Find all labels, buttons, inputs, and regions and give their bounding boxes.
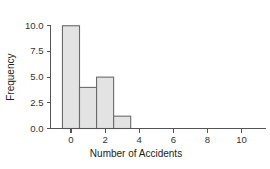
x-tick-label: 4	[137, 134, 142, 145]
y-axis-title: Frequency	[5, 53, 16, 100]
y-axis-ticks: 0.02.55.07.510.0	[25, 20, 51, 134]
x-tick-label: 2	[102, 134, 107, 145]
y-tick-label: 10.0	[25, 20, 44, 31]
x-axis-title: Number of Accidents	[90, 148, 182, 159]
bar	[80, 87, 97, 128]
x-axis-ticks: 0246810	[68, 129, 247, 145]
bar	[62, 26, 79, 129]
y-tick-label: 7.5	[30, 45, 43, 56]
y-tick-label: 2.5	[30, 97, 43, 108]
bars-group	[62, 26, 130, 129]
x-tick-label: 6	[171, 134, 176, 145]
bar	[97, 77, 114, 128]
x-tick-label: 8	[205, 134, 210, 145]
bar	[114, 116, 131, 128]
x-tick-label: 10	[236, 134, 247, 145]
y-tick-label: 5.0	[30, 71, 43, 82]
histogram-chart: 0.02.55.07.510.0 0246810 Frequency Numbe…	[0, 0, 270, 169]
chart-container: 0.02.55.07.510.0 0246810 Frequency Numbe…	[0, 0, 270, 169]
x-tick-label: 0	[68, 134, 73, 145]
y-tick-label: 0.0	[30, 123, 43, 134]
